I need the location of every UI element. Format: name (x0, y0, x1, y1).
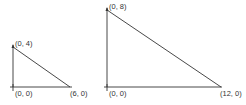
large-hypotenuse (107, 10, 221, 87)
small-top-label: (0, 4) (15, 39, 33, 48)
small-triangle: (0, 4) (0, 0) (6, 0) (10, 39, 88, 98)
large-origin-label: (0, 0) (109, 89, 127, 98)
small-origin-label: (0, 0) (15, 89, 33, 98)
large-right-label: (12, 0) (220, 89, 242, 98)
large-triangle: (0, 8) (0, 0) (12, 0) (104, 2, 242, 98)
large-top-label: (0, 8) (109, 2, 127, 11)
triangles-diagram: (0, 4) (0, 0) (6, 0) (0, 8) (0, 0) (12, … (0, 0, 246, 105)
small-hypotenuse (13, 47, 70, 87)
small-right-label: (6, 0) (70, 89, 88, 98)
